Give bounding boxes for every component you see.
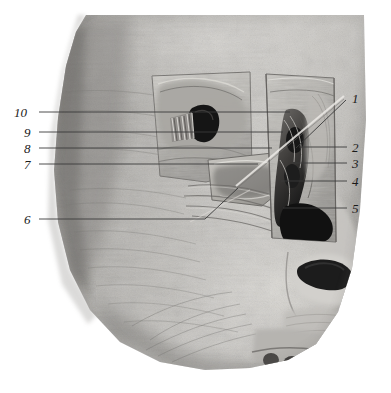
label-number-10: 10 [14, 106, 27, 119]
anatomical-figure: 1 2 3 4 5 6 7 8 9 10 [0, 0, 391, 393]
label-number-4: 4 [352, 175, 359, 188]
photograph-canvas [0, 0, 391, 393]
deep-cavity-mid [284, 164, 300, 188]
label-number-1: 1 [352, 92, 359, 105]
label-number-7: 7 [24, 158, 31, 171]
label-number-3: 3 [352, 157, 359, 170]
label-number-2: 2 [352, 141, 359, 154]
label-number-6: 6 [24, 213, 31, 226]
label-number-9: 9 [24, 126, 31, 139]
dissection-photograph [0, 0, 391, 393]
label-number-8: 8 [24, 142, 31, 155]
label-number-5: 5 [352, 202, 359, 215]
right-dissection-window [262, 70, 342, 250]
